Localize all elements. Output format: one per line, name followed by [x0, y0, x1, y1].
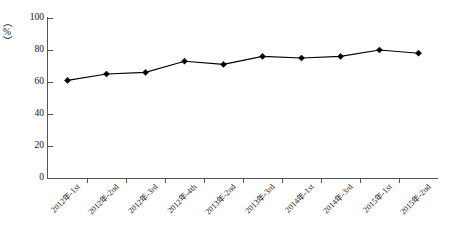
series-line-path	[68, 50, 419, 80]
data-point-marker	[415, 50, 421, 56]
data-point-marker	[103, 71, 109, 77]
data-point-marker	[181, 58, 187, 64]
data-point-marker	[64, 77, 70, 83]
data-point-marker	[376, 47, 382, 53]
data-point-marker	[142, 69, 148, 75]
series-layer	[0, 0, 449, 251]
data-point-marker	[220, 61, 226, 67]
data-point-marker	[259, 53, 265, 59]
data-point-marker	[337, 53, 343, 59]
line-chart: （%） 020406080100 2012年-1st2012年-2nd2012年…	[0, 0, 449, 251]
data-point-marker	[298, 55, 304, 61]
